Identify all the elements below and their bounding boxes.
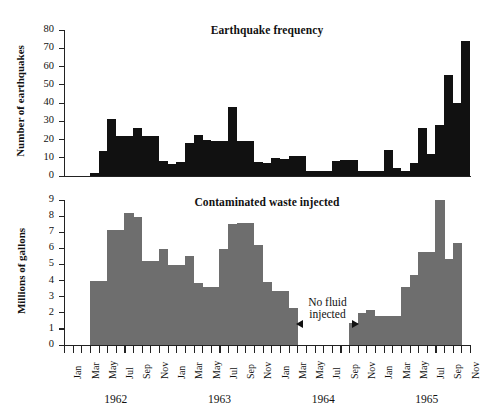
x-tick-mark [211, 346, 212, 353]
y-tick-label: 1 [26, 322, 54, 333]
x-tick-mark [90, 346, 91, 353]
bar [453, 243, 462, 345]
x-month-label: Nov [159, 362, 170, 379]
x-month-label: Sep [245, 364, 256, 379]
x-tick-mark [150, 346, 151, 353]
y-tick-label: 8 [26, 209, 54, 220]
x-month-label: Mar [90, 362, 101, 379]
x-tick-mark [64, 346, 65, 353]
x-tick-mark [194, 346, 195, 353]
y-tick-label: 9 [26, 193, 54, 204]
x-tick-mark [323, 346, 324, 353]
y-tick-label: 0 [26, 169, 54, 180]
figure-root: Earthquake frequency Number of earthquak… [0, 0, 487, 411]
x-month-label: Nov [366, 362, 377, 379]
y-tick-label: 7 [26, 225, 54, 236]
arrow-head-right-icon [352, 320, 359, 328]
x-month-label: Jul [124, 367, 135, 379]
x-tick-mark [315, 346, 316, 353]
x-month-label: May [211, 361, 222, 379]
x-month-label: Jul [435, 367, 446, 379]
y-tick-label: 4 [26, 274, 54, 285]
y-tick-label: 0 [26, 338, 54, 349]
plot-area-waste [64, 200, 470, 345]
x-tick-mark [289, 346, 290, 353]
x-tick-mark [444, 346, 445, 353]
x-tick-mark [461, 346, 462, 353]
x-tick-mark [384, 346, 385, 353]
no-fluid-annotation: No fluid injected [282, 296, 372, 321]
x-tick-mark [228, 346, 229, 353]
x-month-label: Jan [72, 366, 83, 379]
x-month-label: Mar [401, 362, 412, 379]
x-month-label: Jan [280, 366, 291, 379]
x-year-label: 1962 [91, 393, 141, 405]
x-year-label: 1964 [298, 393, 348, 405]
y-tick-label: 70 [26, 41, 54, 52]
x-year-label: 1965 [402, 393, 452, 405]
y-tick-label: 60 [26, 60, 54, 71]
x-tick-mark [470, 346, 471, 353]
x-tick-mark [392, 346, 393, 353]
x-tick-mark [366, 346, 367, 353]
x-tick-mark [142, 346, 143, 353]
x-month-label: May [107, 361, 118, 379]
x-month-label: Mar [193, 362, 204, 379]
y-tick-label: 40 [26, 96, 54, 107]
y-tick-label: 6 [26, 241, 54, 252]
x-tick-mark [245, 346, 246, 353]
x-tick-mark [176, 346, 177, 353]
x-month-label: Sep [452, 364, 463, 379]
y-axis-label-gallons: Millions of gallons [14, 188, 26, 353]
y-tick-label: 10 [26, 151, 54, 162]
plot-area-earthquake [64, 30, 470, 176]
x-tick-mark [375, 346, 376, 353]
x-tick-mark [185, 346, 186, 353]
bar-series-earthquake [64, 30, 470, 176]
x-tick-mark [297, 346, 298, 353]
x-month-label: Nov [262, 362, 273, 379]
x-tick-mark [349, 346, 350, 353]
x-month-label: Jan [383, 366, 394, 379]
x-month-label: Nov [470, 362, 481, 379]
x-tick-mark [73, 346, 74, 353]
y-tick-label: 80 [26, 23, 54, 34]
x-tick-mark [202, 346, 203, 353]
x-tick-mark [306, 346, 307, 353]
y-tick-label: 30 [26, 114, 54, 125]
x-tick-mark [107, 346, 108, 353]
x-month-label: Jul [331, 367, 342, 379]
x-axis-spine-top [64, 176, 471, 177]
x-tick-mark [263, 346, 264, 353]
x-tick-mark [159, 346, 160, 353]
x-tick-mark [332, 346, 333, 353]
x-tick-mark [401, 346, 402, 353]
x-tick-mark [124, 346, 125, 353]
x-tick-mark [410, 346, 411, 353]
arrow-head-left-icon [296, 320, 303, 328]
x-tick-mark [340, 346, 341, 353]
x-tick-mark [116, 346, 117, 353]
y-tick-label: 20 [26, 133, 54, 144]
x-tick-mark [427, 346, 428, 353]
y-tick-label: 3 [26, 290, 54, 301]
x-year-label: 1963 [194, 393, 244, 405]
x-tick-mark [237, 346, 238, 353]
y-tick-label: 5 [26, 257, 54, 268]
bar-series-waste [64, 200, 470, 345]
x-tick-mark [168, 346, 169, 353]
x-tick-mark [219, 346, 220, 353]
x-tick-mark [81, 346, 82, 353]
x-month-label: May [418, 361, 429, 379]
x-month-label: May [314, 361, 325, 379]
x-tick-mark [254, 346, 255, 353]
x-month-label: Sep [349, 364, 360, 379]
x-tick-mark [271, 346, 272, 353]
x-month-label: Sep [141, 364, 152, 379]
x-month-label: Jul [228, 367, 239, 379]
x-tick-mark [418, 346, 419, 353]
x-tick-mark [453, 346, 454, 353]
x-tick-mark [280, 346, 281, 353]
y-tick-label: 2 [26, 306, 54, 317]
y-axis-label-earthquakes: Number of earthquakes [14, 13, 26, 189]
